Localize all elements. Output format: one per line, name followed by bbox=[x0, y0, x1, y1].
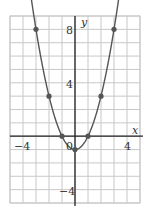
data-point bbox=[85, 134, 90, 139]
y-axis-label: y bbox=[80, 16, 88, 29]
x-axis-label: x bbox=[132, 124, 139, 137]
axes bbox=[10, 16, 143, 206]
parabola-chart: y x −4 4 8 4 −4 0 bbox=[0, 0, 148, 212]
data-point bbox=[33, 27, 38, 32]
y-tick-4: 4 bbox=[66, 78, 73, 91]
x-tick-4: 4 bbox=[124, 140, 131, 153]
origin-label: 0 bbox=[66, 140, 73, 153]
y-tick-8: 8 bbox=[66, 24, 73, 37]
x-tick-neg4: −4 bbox=[14, 140, 30, 153]
data-point bbox=[98, 94, 103, 99]
data-point bbox=[111, 27, 116, 32]
data-point bbox=[46, 94, 51, 99]
data-point bbox=[72, 147, 77, 152]
y-tick-neg4: −4 bbox=[59, 185, 75, 198]
data-point bbox=[59, 134, 64, 139]
